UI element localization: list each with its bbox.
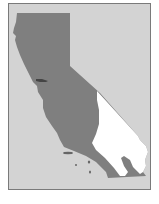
island: [89, 171, 91, 174]
island: [75, 164, 77, 166]
island: [63, 152, 73, 154]
island: [88, 161, 90, 164]
california-map: [0, 0, 159, 204]
